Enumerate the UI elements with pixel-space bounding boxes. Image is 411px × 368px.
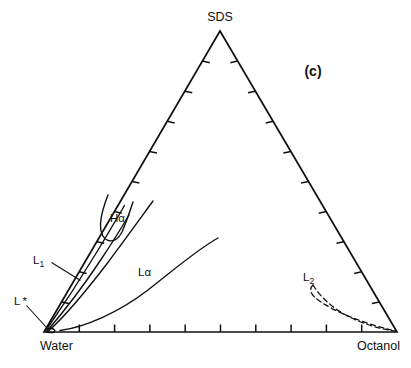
region-label-L2-sub: 2	[309, 276, 314, 286]
region-label-L1: L1	[33, 254, 44, 269]
left-tick-9	[202, 61, 209, 63]
Lstar-leader-line	[27, 306, 47, 328]
L1-leader-line	[52, 263, 81, 281]
ternary-phase-diagram-figure: SDS Water Octanol (c) L1 L* Hα Lα L2	[0, 0, 411, 368]
bottom-axis-ticks	[79, 325, 361, 333]
right-tick-4	[283, 151, 290, 153]
vertex-label-sds: SDS	[207, 10, 233, 24]
L1-lower-boundary-curve	[48, 215, 130, 331]
vertex-label-water: Water	[40, 339, 73, 353]
right-tick-7	[337, 242, 344, 244]
right-tick-1	[230, 61, 237, 63]
region-label-Lstar-base: L	[14, 295, 21, 307]
left-tick-6	[150, 151, 157, 153]
region-label-Halpha-sub: α	[118, 212, 125, 224]
right-axis-ticks	[230, 61, 379, 303]
left-tick-7	[167, 121, 174, 123]
L1-upper-boundary-curve	[47, 206, 125, 330]
left-axis-ticks	[62, 61, 210, 303]
left-tick-8	[185, 91, 192, 93]
right-tick-3	[266, 121, 273, 123]
region-label-Lstar: L*	[14, 295, 27, 307]
region-label-Lalpha: Lα	[138, 266, 151, 278]
region-label-L2: L2	[303, 271, 314, 286]
vertex-label-octanol: Octanol	[357, 339, 400, 353]
region-label-Halpha-base: H	[110, 212, 118, 224]
region-label-Halpha: Hα	[110, 212, 125, 224]
right-tick-5	[301, 182, 308, 184]
ternary-diagram-svg: SDS Water Octanol (c) L1 L* Hα Lα L2	[0, 0, 411, 368]
left-tick-2	[79, 272, 86, 274]
right-tick-6	[319, 212, 326, 214]
region-label-L1-sub: 1	[39, 259, 44, 269]
right-tick-8	[354, 272, 361, 274]
right-tick-9	[372, 302, 379, 304]
left-tick-5	[132, 182, 139, 184]
region-label-Lalpha-sub: α	[144, 266, 151, 278]
panel-label: (c)	[304, 63, 321, 79]
right-tick-2	[248, 91, 255, 93]
triangle-outline	[44, 31, 397, 332]
region-label-Lstar-sub: *	[22, 295, 27, 307]
